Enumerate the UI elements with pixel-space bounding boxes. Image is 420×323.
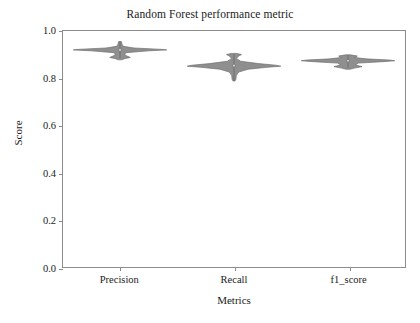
violin-precision	[73, 42, 166, 60]
violin-plot-figure: Random Forest performance metric Score M…	[0, 0, 420, 323]
y-tick-label: 0.8	[16, 72, 56, 83]
x-tick-label-f1_score: f1_score	[289, 274, 409, 285]
y-tick-label: 0.6	[16, 120, 56, 131]
y-tick-label: 0.2	[16, 215, 56, 226]
y-tick-mark	[59, 79, 63, 80]
y-tick-mark	[59, 31, 63, 32]
y-tick-mark	[59, 269, 63, 270]
violin-median-marker	[347, 60, 349, 62]
x-tick-mark	[235, 267, 236, 271]
violin-median-marker	[233, 65, 235, 67]
x-tick-mark	[350, 267, 351, 271]
violin-f1_score	[301, 55, 394, 69]
violin-recall	[187, 53, 280, 81]
x-tick-label-precision: Precision	[59, 274, 179, 285]
x-tick-mark	[120, 267, 121, 271]
y-tick-label: 1.0	[16, 25, 56, 36]
violin-median-marker	[119, 49, 121, 51]
y-tick-mark	[59, 174, 63, 175]
y-tick-mark	[59, 126, 63, 127]
y-tick-label: 0.0	[16, 263, 56, 274]
chart-title: Random Forest performance metric	[0, 8, 420, 20]
plot-area	[62, 30, 406, 268]
y-tick-mark	[59, 221, 63, 222]
y-tick-label: 0.4	[16, 167, 56, 178]
violin-layer	[63, 31, 405, 267]
x-tick-label-recall: Recall	[174, 274, 294, 285]
x-axis-label: Metrics	[62, 294, 406, 306]
